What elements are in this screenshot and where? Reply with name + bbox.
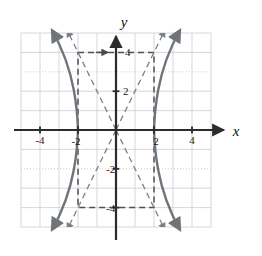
y-tick-label: -4	[106, 202, 116, 214]
x-tick-label: -4	[35, 134, 45, 146]
coordinate-plane-svg: -4 -2 2 4 4 2 -2 -4 y x	[0, 0, 262, 256]
y-tick-label: 2	[123, 85, 129, 97]
y-axis-label: y	[119, 14, 128, 30]
y-tick-label: 4	[125, 46, 131, 58]
x-axis-label: x	[232, 123, 240, 139]
x-tick-label: -2	[71, 135, 80, 147]
x-tick-label: 4	[189, 134, 195, 146]
graph-figure: -4 -2 2 4 4 2 -2 -4 y x	[0, 0, 262, 256]
y-tick-label: -2	[106, 163, 115, 175]
x-tick-label: 2	[153, 135, 159, 147]
